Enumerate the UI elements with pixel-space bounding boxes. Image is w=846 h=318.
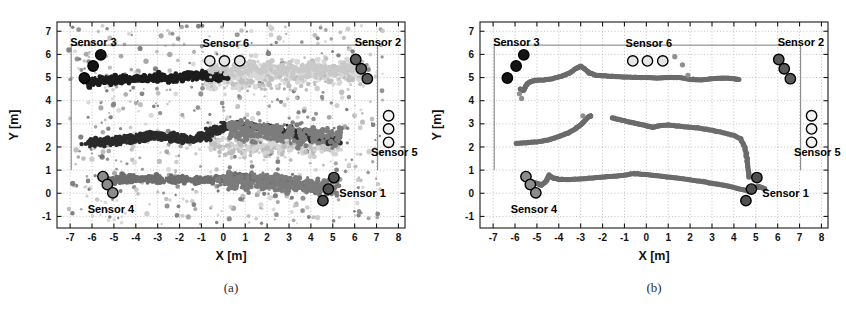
track-point: [98, 137, 103, 142]
light-point: [236, 79, 239, 82]
track-point: [304, 69, 307, 72]
mid-blob-point: [269, 137, 273, 141]
noise-point: [101, 24, 105, 28]
noise-point: [357, 213, 361, 217]
light-point: [335, 149, 338, 152]
mid-blob-point: [289, 182, 295, 188]
noise-point: [159, 33, 164, 38]
noise-point: [300, 40, 304, 44]
track-point: [214, 125, 218, 129]
track-point: [271, 70, 275, 74]
track-point: [278, 72, 282, 76]
noise-point: [144, 211, 149, 216]
noise-point: [360, 120, 365, 125]
noise-point: [225, 115, 230, 120]
noise-point: [141, 168, 144, 171]
plot-group: Sensor 1Sensor 2Sensor 3Sensor 4Sensor 5…: [7, 22, 418, 295]
noise-point: [300, 196, 305, 201]
noise-point: [87, 188, 90, 191]
noise-point: [347, 162, 351, 166]
mid-blob-point: [219, 175, 222, 178]
mid-blob-point: [262, 135, 266, 139]
sensor-marker: [746, 184, 756, 194]
x-tick-label: -6: [511, 232, 520, 243]
mid-blob-point: [255, 131, 259, 135]
noise-point: [108, 112, 110, 114]
track-point: [340, 66, 343, 69]
mid-blob-point: [290, 120, 294, 124]
stray-point: [519, 96, 524, 101]
track-point: [348, 66, 352, 70]
light-point: [270, 149, 274, 153]
noise-point: [360, 24, 364, 28]
noise-point: [202, 51, 204, 53]
noise-point: [104, 119, 107, 122]
light-point: [231, 143, 234, 146]
track-point: [223, 72, 227, 76]
mid-blob-point: [324, 130, 328, 134]
mid-blob-point: [291, 131, 295, 135]
mid-blob-point: [304, 178, 309, 183]
stray-point: [685, 73, 690, 78]
track-point: [145, 131, 150, 136]
mid-blob-point: [337, 135, 340, 138]
plot-group: Sensor 1Sensor 2Sensor 3Sensor 4Sensor 5…: [430, 22, 841, 295]
y-tick-label: 5: [45, 72, 51, 83]
y-tick-label: 6: [468, 49, 474, 60]
noise-point: [115, 168, 118, 171]
light-point: [316, 145, 321, 150]
noise-point: [185, 200, 189, 204]
noise-point: [238, 197, 242, 201]
track-point: [337, 73, 340, 76]
sensor-label: Sensor 3: [70, 36, 116, 48]
light-point: [294, 59, 300, 65]
sensor-marker: [351, 54, 361, 64]
mid-blob-point: [311, 141, 314, 144]
track-point: [92, 141, 96, 145]
noise-point: [250, 164, 255, 169]
noise-point: [283, 87, 286, 90]
sensor-marker: [752, 172, 762, 182]
track-point: [128, 140, 133, 145]
noise-point: [353, 164, 357, 168]
y-tick-label: 4: [45, 95, 51, 106]
track-point: [115, 174, 119, 178]
mid-blob-point: [271, 183, 274, 186]
sensor-marker: [774, 54, 784, 64]
panel-a-plot: Sensor 1Sensor 2Sensor 3Sensor 4Sensor 5…: [0, 0, 423, 318]
track-point: [235, 68, 239, 72]
noise-point: [176, 36, 181, 41]
noise-point: [251, 42, 253, 44]
x-tick-label: 1: [242, 232, 248, 243]
light-point: [230, 149, 236, 155]
noise-point: [180, 214, 184, 218]
noise-point: [70, 181, 75, 186]
light-point: [287, 81, 290, 84]
track-point: [280, 58, 284, 62]
noise-point: [279, 100, 283, 104]
x-tick-label: 8: [396, 232, 402, 243]
noise-point: [134, 101, 138, 105]
noise-point: [304, 88, 308, 92]
light-point: [303, 56, 306, 59]
mid-blob-point: [252, 174, 256, 178]
track-point: [99, 141, 103, 145]
track-point: [140, 178, 143, 181]
noise-point: [356, 152, 359, 155]
stray-point: [580, 113, 585, 118]
noise-point: [174, 160, 178, 164]
light-point: [303, 149, 308, 154]
track-point: [169, 75, 172, 78]
x-tick-label: 1: [665, 232, 671, 243]
sensor-marker: [806, 111, 816, 121]
noise-point: [94, 125, 98, 129]
noise-point: [296, 115, 300, 119]
noise-point: [379, 135, 382, 138]
noise-point: [269, 33, 274, 38]
noise-point: [258, 119, 262, 123]
mid-blob-point: [292, 139, 296, 143]
y-tick-label: 0: [468, 188, 474, 199]
track-point: [111, 177, 115, 181]
noise-point: [322, 164, 325, 167]
noise-point: [375, 71, 377, 73]
